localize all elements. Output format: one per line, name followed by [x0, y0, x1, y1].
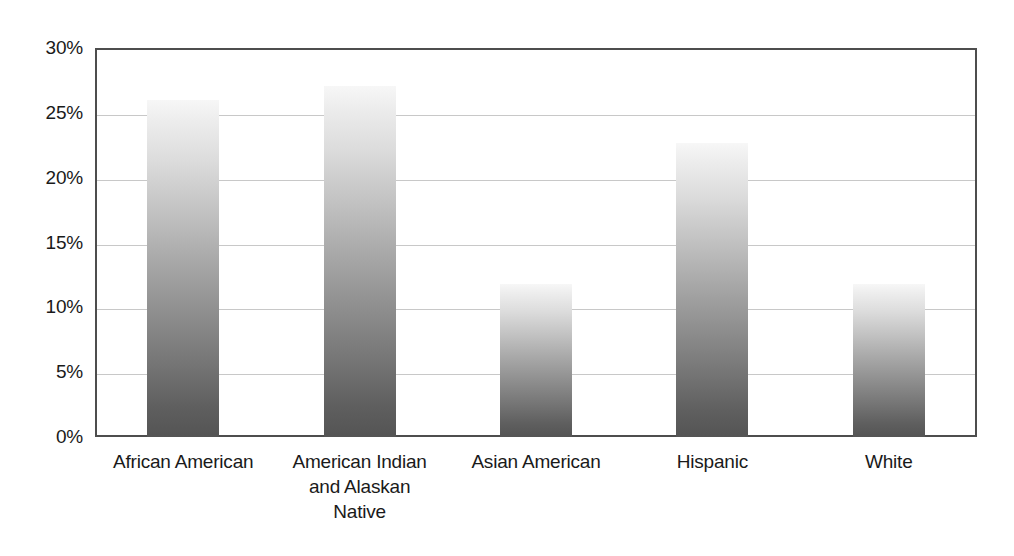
y-tick-label: 30% — [0, 38, 83, 57]
x-tick-label: White — [801, 449, 977, 474]
x-tick-label-line: Hispanic — [624, 449, 800, 474]
plot-area — [95, 48, 977, 437]
gridline — [97, 245, 975, 246]
x-tick-label: African American — [95, 449, 271, 474]
y-axis: 0%5%10%15%20%25%30% — [0, 48, 83, 437]
x-tick-label-line: African American — [95, 449, 271, 474]
y-tick-label: 20% — [0, 168, 83, 187]
x-tick-label-line: and Alaskan — [271, 474, 447, 499]
x-tick-label: American Indianand AlaskanNative — [271, 449, 447, 524]
x-axis: African AmericanAmerican Indianand Alask… — [95, 449, 977, 549]
y-tick-label: 5% — [0, 362, 83, 381]
gridline — [97, 115, 975, 116]
y-tick-label: 15% — [0, 233, 83, 252]
x-tick-label-line: Asian American — [448, 449, 624, 474]
x-tick-label-line: White — [801, 449, 977, 474]
x-tick-label: Hispanic — [624, 449, 800, 474]
y-tick-label: 25% — [0, 103, 83, 122]
gridline — [97, 309, 975, 310]
gridline — [97, 180, 975, 181]
bar-chart: 0%5%10%15%20%25%30% African AmericanAmer… — [0, 0, 1014, 556]
gridline — [97, 374, 975, 375]
x-tick-label-line: American Indian — [271, 449, 447, 474]
y-tick-label: 10% — [0, 297, 83, 316]
y-tick-label: 0% — [0, 427, 83, 446]
x-tick-label: Asian American — [448, 449, 624, 474]
x-tick-label-line: Native — [271, 499, 447, 524]
